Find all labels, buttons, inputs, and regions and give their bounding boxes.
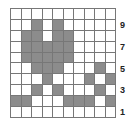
- shaded-cell: [64, 31, 75, 42]
- empty-cell: [22, 20, 33, 31]
- shaded-cell: [106, 96, 117, 107]
- empty-cell: [85, 107, 96, 118]
- empty-cell: [64, 63, 75, 74]
- empty-cell: [11, 42, 22, 53]
- empty-cell: [32, 9, 43, 20]
- shaded-cell: [106, 74, 117, 85]
- empty-cell: [11, 63, 22, 74]
- empty-cell: [11, 107, 22, 118]
- shaded-cell: [22, 42, 33, 53]
- shaded-cell: [64, 42, 75, 53]
- shaded-cell: [32, 20, 43, 31]
- empty-cell: [95, 96, 106, 107]
- empty-cell: [85, 53, 96, 64]
- row-label: 5: [120, 64, 125, 75]
- empty-cell: [11, 9, 22, 20]
- shaded-cell: [53, 85, 64, 96]
- row-label: 1: [120, 107, 125, 118]
- empty-cell: [95, 42, 106, 53]
- empty-cell: [11, 85, 22, 96]
- shaded-cell: [53, 53, 64, 64]
- shaded-cell: [85, 74, 96, 85]
- empty-cell: [74, 31, 85, 42]
- shaded-cell: [53, 63, 64, 74]
- empty-cell: [106, 9, 117, 20]
- empty-cell: [64, 20, 75, 31]
- empty-cell: [106, 85, 117, 96]
- empty-cell: [22, 107, 33, 118]
- empty-cell: [106, 20, 117, 31]
- empty-cell: [64, 107, 75, 118]
- empty-cell: [74, 42, 85, 53]
- shaded-cell: [95, 63, 106, 74]
- shaded-cell: [43, 74, 54, 85]
- empty-cell: [64, 85, 75, 96]
- empty-cell: [74, 63, 85, 74]
- empty-cell: [32, 96, 43, 107]
- empty-cell: [95, 53, 106, 64]
- pixel-grid: [10, 8, 116, 118]
- shaded-cell: [32, 63, 43, 74]
- empty-cell: [74, 74, 85, 85]
- empty-cell: [53, 74, 64, 85]
- empty-cell: [43, 96, 54, 107]
- empty-cell: [11, 74, 22, 85]
- empty-cell: [85, 31, 96, 42]
- shaded-cell: [53, 20, 64, 31]
- empty-cell: [106, 63, 117, 74]
- empty-cell: [85, 42, 96, 53]
- empty-cell: [85, 85, 96, 96]
- empty-cell: [43, 85, 54, 96]
- shaded-cell: [32, 31, 43, 42]
- empty-cell: [95, 20, 106, 31]
- empty-cell: [106, 42, 117, 53]
- empty-cell: [32, 74, 43, 85]
- shaded-cell: [85, 96, 96, 107]
- shaded-cell: [43, 42, 54, 53]
- row-label: 9: [120, 20, 125, 31]
- empty-cell: [106, 31, 117, 42]
- empty-cell: [74, 85, 85, 96]
- shaded-cell: [43, 53, 54, 64]
- empty-cell: [32, 107, 43, 118]
- empty-cell: [95, 107, 106, 118]
- shaded-cell: [74, 96, 85, 107]
- shaded-cell: [22, 53, 33, 64]
- empty-cell: [22, 74, 33, 85]
- shaded-cell: [32, 85, 43, 96]
- empty-cell: [43, 107, 54, 118]
- empty-cell: [64, 9, 75, 20]
- empty-cell: [53, 107, 64, 118]
- empty-cell: [43, 9, 54, 20]
- empty-cell: [74, 20, 85, 31]
- shaded-cell: [22, 31, 33, 42]
- empty-cell: [74, 9, 85, 20]
- empty-cell: [95, 31, 106, 42]
- empty-cell: [11, 31, 22, 42]
- empty-cell: [11, 53, 22, 64]
- empty-cell: [95, 9, 106, 20]
- empty-cell: [43, 20, 54, 31]
- shaded-cell: [95, 85, 106, 96]
- empty-cell: [64, 74, 75, 85]
- empty-cell: [74, 53, 85, 64]
- shaded-cell: [64, 96, 75, 107]
- row-label: 3: [120, 85, 125, 96]
- empty-cell: [43, 31, 54, 42]
- shaded-cell: [32, 53, 43, 64]
- shaded-cell: [53, 42, 64, 53]
- empty-cell: [22, 85, 33, 96]
- shaded-cell: [11, 96, 22, 107]
- empty-cell: [74, 107, 85, 118]
- shaded-cell: [22, 96, 33, 107]
- empty-cell: [106, 107, 117, 118]
- empty-cell: [53, 9, 64, 20]
- row-label: 7: [120, 42, 125, 53]
- empty-cell: [85, 9, 96, 20]
- empty-cell: [22, 9, 33, 20]
- empty-cell: [22, 63, 33, 74]
- empty-cell: [106, 53, 117, 64]
- empty-cell: [11, 20, 22, 31]
- shaded-cell: [53, 31, 64, 42]
- shaded-cell: [32, 42, 43, 53]
